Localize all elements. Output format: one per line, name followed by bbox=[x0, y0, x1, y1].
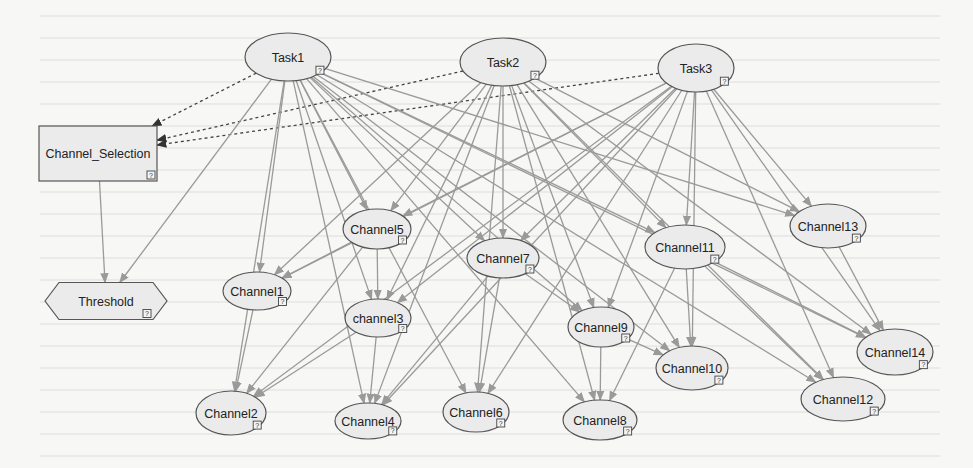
svg-text:?: ? bbox=[533, 72, 537, 79]
edge-channel5-to-channel3 bbox=[377, 249, 378, 299]
node-channel4[interactable]: Channel4? bbox=[335, 403, 401, 439]
edge-task3-to-channel7 bbox=[521, 88, 676, 240]
channel12-label: Channel12 bbox=[813, 393, 874, 407]
node-channel7[interactable]: Channel7? bbox=[467, 238, 539, 278]
channel5-label: Channel5 bbox=[350, 223, 404, 237]
node-task2[interactable]: Task2? bbox=[460, 38, 546, 86]
svg-text:?: ? bbox=[624, 335, 628, 342]
channel6-label: Channel6 bbox=[449, 406, 503, 420]
channel1-label: Channel1 bbox=[230, 285, 284, 299]
node-channel12[interactable]: Channel12? bbox=[801, 377, 885, 421]
node-task1[interactable]: Task1? bbox=[245, 33, 331, 81]
help-badge-icon[interactable]: ? bbox=[720, 77, 728, 85]
help-badge-icon[interactable]: ? bbox=[278, 297, 286, 305]
task2-label: Task2 bbox=[487, 56, 520, 70]
edge-channel11-to-channel14 bbox=[715, 262, 866, 338]
help-badge-icon[interactable]: ? bbox=[398, 236, 406, 244]
node-channel_selection[interactable]: Channel_Selection? bbox=[39, 126, 157, 181]
svg-text:?: ? bbox=[391, 427, 395, 434]
help-badge-icon[interactable]: ? bbox=[531, 71, 539, 79]
network-diagram: Task1?Task2?Task3?Channel_Selection?Thre… bbox=[0, 0, 973, 468]
help-badge-icon[interactable]: ? bbox=[143, 310, 151, 318]
help-badge-icon[interactable]: ? bbox=[622, 334, 630, 342]
help-badge-icon[interactable]: ? bbox=[919, 361, 927, 369]
help-badge-icon[interactable]: ? bbox=[147, 171, 155, 179]
help-badge-icon[interactable]: ? bbox=[389, 427, 397, 435]
svg-text:?: ? bbox=[854, 235, 858, 242]
svg-text:?: ? bbox=[626, 428, 630, 435]
node-channel1[interactable]: Channel1? bbox=[223, 272, 291, 310]
channel7-label: Channel7 bbox=[476, 252, 530, 266]
channel13-label: Channel13 bbox=[798, 220, 859, 234]
edge-channel5-to-channel1 bbox=[282, 242, 351, 278]
svg-text:?: ? bbox=[528, 266, 532, 273]
svg-text:?: ? bbox=[713, 256, 717, 263]
svg-text:?: ? bbox=[281, 298, 285, 305]
edge-task3-to-channel13 bbox=[714, 89, 812, 206]
svg-text:?: ? bbox=[717, 377, 721, 384]
help-badge-icon[interactable]: ? bbox=[316, 66, 324, 74]
task1-label: Task1 bbox=[272, 51, 305, 65]
nodes-layer: Task1?Task2?Task3?Channel_Selection?Thre… bbox=[39, 33, 933, 440]
help-badge-icon[interactable]: ? bbox=[497, 419, 505, 427]
help-badge-icon[interactable]: ? bbox=[253, 421, 261, 429]
edge-task1-to-channel_selection bbox=[152, 73, 256, 126]
svg-text:?: ? bbox=[401, 325, 405, 332]
channel3-label: channel3 bbox=[353, 312, 404, 326]
help-badge-icon[interactable]: ? bbox=[624, 427, 632, 435]
node-channel5[interactable]: Channel5? bbox=[343, 209, 411, 249]
svg-text:?: ? bbox=[401, 237, 405, 244]
threshold-label: Threshold bbox=[78, 295, 134, 309]
help-badge-icon[interactable]: ? bbox=[526, 265, 534, 273]
help-badge-icon[interactable]: ? bbox=[399, 324, 407, 332]
edge-task1-to-channel1 bbox=[260, 81, 285, 272]
svg-text:?: ? bbox=[872, 408, 876, 415]
channel14-label: Channel14 bbox=[865, 346, 926, 360]
edge-channel9-to-channel8 bbox=[600, 347, 601, 400]
node-channel2[interactable]: Channel2? bbox=[196, 391, 266, 435]
edge-channel7-to-channel4 bbox=[382, 276, 488, 404]
edge-channel7-to-channel9 bbox=[525, 274, 579, 312]
edge-channel_selection-to-threshold bbox=[99, 181, 105, 283]
help-badge-icon[interactable]: ? bbox=[715, 376, 723, 384]
edge-channel1-to-channel2 bbox=[236, 310, 253, 391]
edge-task1-to-channel14 bbox=[320, 73, 865, 338]
svg-text:?: ? bbox=[149, 172, 153, 179]
svg-text:?: ? bbox=[318, 67, 322, 74]
node-channel8[interactable]: Channel8? bbox=[563, 400, 637, 440]
node-task3[interactable]: Task3? bbox=[658, 44, 734, 92]
help-badge-icon[interactable]: ? bbox=[852, 234, 860, 242]
edge-task1-to-channel2 bbox=[235, 81, 285, 391]
svg-text:?: ? bbox=[145, 310, 149, 317]
node-channel6[interactable]: Channel6? bbox=[443, 392, 509, 432]
edge-channel11-to-channel10 bbox=[686, 269, 690, 346]
node-channel14[interactable]: Channel14? bbox=[857, 329, 933, 375]
node-channel11[interactable]: Channel11? bbox=[645, 225, 725, 269]
node-channel9[interactable]: Channel9? bbox=[568, 307, 634, 347]
edge-task3-to-channel2 bbox=[254, 86, 672, 396]
channel9-label: Channel9 bbox=[574, 321, 628, 335]
node-channel13[interactable]: Channel13? bbox=[790, 204, 866, 248]
channel2-label: Channel2 bbox=[204, 407, 258, 421]
channel4-label: Channel4 bbox=[341, 415, 395, 429]
channel8-label: Channel8 bbox=[573, 414, 627, 428]
svg-text:?: ? bbox=[921, 361, 925, 368]
svg-text:?: ? bbox=[722, 78, 726, 85]
channel_selection-label: Channel_Selection bbox=[46, 147, 151, 161]
node-channel10[interactable]: Channel10? bbox=[656, 346, 728, 390]
edge-task3-to-channel5 bbox=[403, 83, 667, 216]
edge-task2-to-channel_selection bbox=[157, 71, 463, 140]
edges-layer bbox=[99, 69, 883, 405]
edge-channel13-to-channel14 bbox=[839, 247, 883, 330]
svg-text:?: ? bbox=[499, 420, 503, 427]
channel10-label: Channel10 bbox=[662, 362, 723, 376]
channel11-label: Channel11 bbox=[655, 241, 715, 255]
edge-channel3-to-channel2 bbox=[255, 332, 356, 397]
node-channel3[interactable]: channel3? bbox=[345, 299, 411, 337]
help-badge-icon[interactable]: ? bbox=[711, 255, 719, 263]
help-badge-icon[interactable]: ? bbox=[870, 407, 878, 415]
svg-text:?: ? bbox=[255, 422, 259, 429]
node-threshold[interactable]: Threshold? bbox=[45, 283, 167, 320]
task3-label: Task3 bbox=[680, 62, 713, 76]
edge-channel3-to-channel4 bbox=[370, 337, 376, 403]
